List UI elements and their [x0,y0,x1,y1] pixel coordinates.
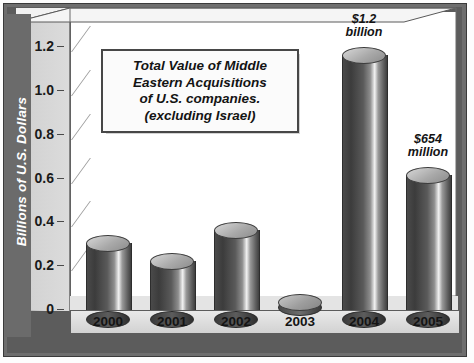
x-label-2000: 2000 [76,314,140,329]
bar-cap [278,294,322,311]
data-label-2005: $654 million [390,133,466,159]
y-tick-0: 0 [12,301,66,317]
x-label-2003: 2003 [268,314,332,329]
callout-text: Total Value of Middle Eastern Acquisitio… [133,58,267,124]
y-tick-label: 0 [46,301,66,317]
bar-body [214,230,260,310]
bar-body [86,243,132,310]
bar-2002 [214,222,258,319]
bar-2005 [406,167,450,319]
x-label-2001: 2001 [140,314,204,329]
y-tick-0_6: 0.6 [12,170,66,186]
y-tick-label: 0.2 [35,257,66,273]
y-tick-label: 0.6 [35,170,66,186]
bar-body [342,55,388,310]
bar-cap [406,167,450,184]
bar-2003 [278,294,322,316]
x-label-2002: 2002 [204,314,268,329]
y-tick-label: 0.8 [35,126,66,142]
bar-2004 [342,47,386,319]
callout-box: Total Value of Middle Eastern Acquisitio… [101,49,299,133]
bar-body [406,175,452,310]
y-tick-label: 0.4 [35,213,66,229]
y-tick-1_2: 1.2 [12,38,66,54]
y-tick-1_0: 1.0 [12,82,66,98]
chart-figure: Billions of U.S. Dollars 00.20.40.60.81.… [0,0,474,363]
y-tick-0_8: 0.8 [12,126,66,142]
bar-2000 [86,235,130,319]
y-tick-0_4: 0.4 [12,213,66,229]
bar-cap [342,47,386,64]
y-tick-label: 1.0 [35,82,66,98]
data-label-2004: $1.2 billion [326,13,402,39]
y-tick-label: 1.2 [35,38,66,54]
bar-cap [150,253,194,270]
y-tick-0_2: 0.2 [12,257,66,273]
bar-2001 [150,253,194,319]
x-label-2005: 2005 [396,314,460,329]
x-label-2004: 2004 [332,314,396,329]
